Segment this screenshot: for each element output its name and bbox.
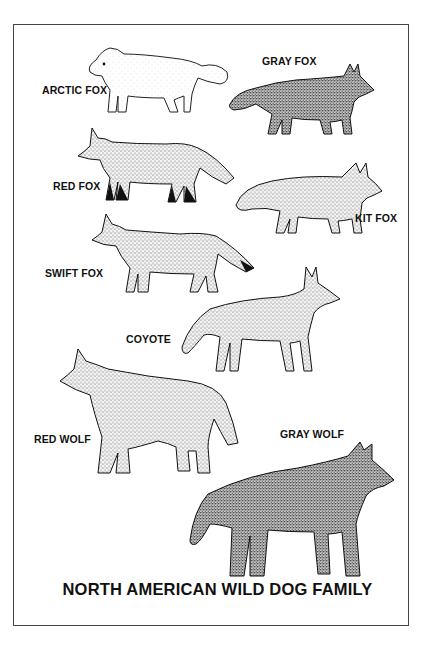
red-fox-label: RED FOX xyxy=(53,180,100,192)
kit-fox-label: KIT FOX xyxy=(355,212,397,224)
red-wolf-label: RED WOLF xyxy=(34,433,91,445)
gray-wolf-label: GRAY WOLF xyxy=(280,428,344,440)
gray-fox-illustration xyxy=(226,62,378,137)
page-corner-mark xyxy=(406,0,416,5)
gray-wolf-illustration xyxy=(188,440,398,580)
coyote-label: COYOTE xyxy=(126,333,171,345)
arctic-fox-label: ARCTIC FOX xyxy=(42,84,107,96)
poster-title: NORTH AMERICAN WILD DOG FAMILY xyxy=(45,580,390,599)
swift-fox-label: SWIFT FOX xyxy=(45,267,103,279)
arctic-fox-illustration xyxy=(82,42,232,117)
